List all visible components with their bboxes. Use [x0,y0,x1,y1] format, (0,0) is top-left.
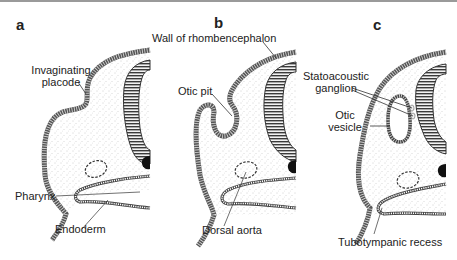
label-line: placode [26,76,96,88]
label-endoderm: Endoderm [55,223,106,235]
label-line: Otic [320,109,370,121]
label-wall-of-rhombencephalon: Wall of rhombencephalon [152,32,276,44]
label-line: ganglion [296,82,376,94]
label-line: vesicle [320,121,370,133]
label-dorsal-aorta: Dorsal aorta [202,224,262,236]
label-invaginating-placode: Invaginating placode [26,64,96,88]
label-otic-pit: Otic pit [178,85,212,97]
label-line: Invaginating [26,64,96,76]
label-line: Statoacoustic [296,70,376,82]
label-statoacoustic-ganglion: Statoacoustic ganglion [296,70,376,94]
panel-b [196,42,296,246]
panel-letter-c: c [373,16,381,33]
label-otic-vesicle: Otic vesicle [320,109,370,133]
panel-letter-a: a [16,16,24,33]
label-pharynx: Pharynx [15,190,55,202]
panel-letter-b: b [214,14,223,31]
label-tubotympanic-recess: Tubotympanic recess [338,236,442,248]
